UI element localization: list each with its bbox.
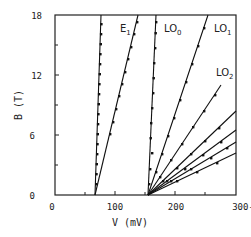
y-axis-label: B (T)	[13, 90, 24, 120]
label-lo1: LO1	[214, 23, 232, 37]
label-lo0: LO0	[164, 23, 182, 37]
line-fan-b	[148, 130, 236, 195]
y-tick-0: 0	[30, 191, 35, 201]
x-tick-200: 200	[168, 202, 184, 212]
plot-frame	[55, 15, 236, 195]
y-tick-6: 6	[30, 131, 35, 141]
x-tick-100: 100	[107, 202, 123, 212]
x-tick-300: 300-	[232, 202, 251, 212]
x-tick-0: 0	[49, 202, 54, 212]
y-tick-12: 12	[31, 71, 42, 81]
series-lines	[95, 15, 236, 195]
line-lo2	[148, 85, 221, 195]
line-fan-d	[148, 153, 236, 195]
x-ticks	[85, 191, 205, 195]
chart: 18 12 6 0 0 100 200 300- V (mV) B (T)	[0, 0, 251, 237]
label-lo2: LO2	[216, 67, 234, 81]
line-e1	[95, 15, 138, 195]
label-e1: E1	[120, 23, 131, 37]
y-tick-18: 18	[31, 11, 42, 21]
x-axis-label: V (mV)	[112, 217, 148, 228]
